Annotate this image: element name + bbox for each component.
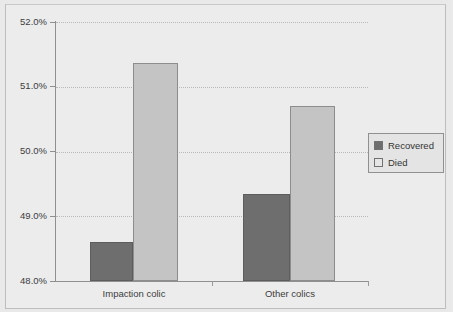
y-tick-label-49: 49.0% (0, 210, 47, 221)
bar-impaction-colic-recovered (90, 242, 133, 281)
legend-swatch-recovered-icon (374, 141, 383, 150)
chart-legend: Recovered Died (368, 133, 444, 173)
gridline-51 (56, 87, 368, 88)
y-tick-mark-51 (50, 86, 56, 87)
y-tick-mark-49 (50, 216, 56, 217)
x-category-label-impaction-colic: Impaction colic (56, 288, 212, 299)
legend-label-recovered: Recovered (388, 140, 434, 151)
x-tick-separator-mid (212, 281, 213, 286)
y-tick-label-52: 52.0% (0, 16, 47, 27)
y-tick-label-50: 50.0% (0, 145, 47, 156)
bar-chart-figure: 52.0% 51.0% 50.0% 49.0% 48.0% Impaction … (0, 0, 453, 312)
x-tick-separator-end (368, 281, 369, 286)
bar-other-colics-recovered (243, 194, 290, 281)
legend-item-recovered: Recovered (374, 138, 439, 153)
gridline-52 (56, 22, 368, 23)
y-tick-mark-50 (50, 151, 56, 152)
y-tick-label-51: 51.0% (0, 80, 47, 91)
legend-item-died: Died (374, 155, 439, 170)
plot-area (56, 22, 368, 281)
legend-label-died: Died (388, 157, 408, 168)
y-tick-label-48: 48.0% (0, 275, 47, 286)
y-tick-mark-52 (50, 22, 56, 23)
y-tick-mark-48 (50, 281, 56, 282)
bar-other-colics-died (290, 106, 335, 281)
x-category-label-other-colics: Other colics (212, 288, 368, 299)
legend-swatch-died-icon (374, 158, 383, 167)
bar-impaction-colic-died (133, 63, 178, 281)
